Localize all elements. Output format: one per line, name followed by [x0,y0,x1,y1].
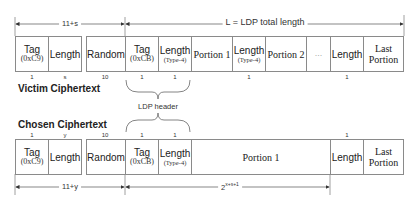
victim-prefix-length-label: 11+s [59,19,81,28]
victim-size-ldp-length: 1 [165,74,185,80]
victim-portion-1-field: Portion 1 [191,36,233,72]
field-name: Length [160,148,191,159]
victim-random-field: Random [86,36,126,72]
field-name: Portion 1 [243,152,280,163]
field-sub: (Type-4) [164,56,187,63]
ldp-header-label: LDP header [135,102,181,111]
victim-portion-2-length-field: Length (Type-4) [232,36,266,72]
chosen-portion-1-field: Portion 1 [191,139,331,175]
field-name: Portion 1 [194,49,231,60]
chosen-size-random: 10 [95,132,115,138]
field-name: Length [332,49,363,60]
diagram-lines [0,0,420,209]
chosen-ldp-length-field: Length (Type-4) [158,139,192,175]
field-name: Length [332,152,363,163]
victim-size-portion-2-length: 1 [239,74,259,80]
field-sub: (Type-4) [238,56,261,63]
power-exponent: x+s+1 [225,181,239,187]
field-name: Length [50,49,81,60]
field-name: Last [375,43,392,54]
chosen-size-tag: 1 [22,132,42,138]
chosen-tag-field: Tag (0xC9) [15,139,49,175]
victim-ellipsis-field: ... [306,36,331,72]
ldp-total-length-label: L = LDP total length [223,17,308,27]
chosen-ldp-tag-field: Tag (0xCB) [125,139,159,175]
field-name: Length [234,45,265,56]
chosen-size-ldp-length: 1 [165,132,185,138]
chosen-last-length-field: Length [330,139,364,175]
field-name: Random [87,152,125,163]
victim-ciphertext-title: Victim Ciphertext [18,83,100,94]
chosen-ciphertext-title: Chosen Ciphertext [18,119,107,130]
victim-size-length: s [55,74,75,80]
chosen-size-ldp-tag: 1 [132,132,152,138]
field-sub: (0xC9) [21,55,44,64]
chosen-length-field: Length [48,139,82,175]
victim-size-random: 10 [95,74,115,80]
victim-size-tag: 1 [22,74,42,80]
field-name: Random [87,49,125,60]
field-sub: (Type-4) [164,159,187,166]
field-name: Length [50,152,81,163]
field-name-2: Portion [369,54,398,65]
portion-1-length-label: 2x+s+1 [218,181,242,192]
victim-portion-2-field: Portion 2 [265,36,307,72]
chosen-prefix-length-label: 11+y [59,182,81,191]
field-name: Last [375,146,392,157]
victim-ldp-tag-field: Tag (0xCB) [125,36,159,72]
field-name: Length [160,45,191,56]
field-sub: (0xCB) [130,55,154,64]
victim-length-field: Length [48,36,82,72]
victim-last-portion-field: Last Portion [363,36,404,72]
victim-last-length-field: Length [330,36,364,72]
field-sub: (0xCB) [130,158,154,167]
field-sub: (0xC9) [21,158,44,167]
victim-tag-field: Tag (0xC9) [15,36,49,72]
field-name-2: Portion [369,157,398,168]
victim-size-ldp-tag: 1 [132,74,152,80]
ellipsis: ... [315,49,323,59]
chosen-size-length: y [55,132,75,138]
chosen-last-portion-field: Last Portion [363,139,404,175]
victim-size-last-length: 1 [337,74,357,80]
chosen-random-field: Random [86,139,126,175]
field-name: Portion 2 [268,49,305,60]
victim-ldp-length-field: Length (Type-4) [158,36,192,72]
chosen-size-last-length: 1 [337,132,357,138]
